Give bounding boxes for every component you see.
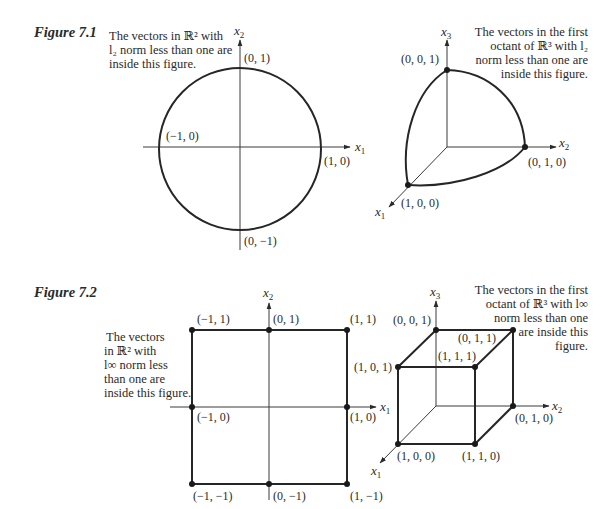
point-label-111: (1, 1, 1) <box>438 349 476 363</box>
point-bl <box>189 481 195 487</box>
figure-7-2-title: Figure 7.2 <box>33 284 97 300</box>
caption: The vectors in ℝ² with l∞ norm less than… <box>104 330 191 400</box>
point-label-ml: (−1, 0) <box>197 410 230 424</box>
point-label-110: (1, 1, 0) <box>462 449 500 463</box>
point-label-010: (0, 1, 0) <box>515 411 553 425</box>
point-010 <box>522 144 528 150</box>
caption-line: The vectors in the first <box>475 283 589 297</box>
caption: The vectors in the first octant of ℝ³ wi… <box>475 25 589 81</box>
point-101 <box>395 364 401 370</box>
figure-7-1-title: Figure 7.1 <box>33 24 97 40</box>
point-label-tc: (0, 1) <box>273 312 299 326</box>
x1-axis-label: x1 <box>370 463 381 480</box>
point-001 <box>433 327 439 333</box>
point-tl <box>189 327 195 333</box>
caption-line: inside this figure. <box>501 67 588 81</box>
point-bc <box>266 481 272 487</box>
point-100 <box>395 441 401 447</box>
caption-line: The vectors in ℝ² with <box>109 29 224 43</box>
x1-axis-label: x1 <box>374 204 385 221</box>
figure-7-1-l2-circle-panel: The vectors in ℝ² with l₂ norm less than… <box>109 23 365 250</box>
point-tr <box>344 327 350 333</box>
point-111 <box>472 364 478 370</box>
caption-line: figure. <box>555 339 588 353</box>
caption-line: norm less than one are <box>476 53 589 67</box>
caption-line: than one are <box>104 372 166 386</box>
point-ml <box>189 404 195 410</box>
caption-line: are inside this <box>519 325 589 339</box>
point-label-001: (0, 0, 1) <box>393 313 431 327</box>
caption-line: inside this figure. <box>104 386 191 400</box>
x2-axis-label: x2 <box>558 135 569 152</box>
point-label-bl: (−1, −1) <box>193 489 233 503</box>
caption-line: The vectors in the first <box>475 25 589 39</box>
point-label-right: (1, 0) <box>324 154 350 168</box>
point-label-100: (1, 0, 0) <box>397 449 435 463</box>
point-label-001: (0, 0, 1) <box>401 52 439 66</box>
caption-line: l∞ norm less <box>104 358 168 372</box>
figure-7-2-linf-cube-panel: The vectors in the first octant of ℝ³ wi… <box>354 283 589 480</box>
point-label-100: (1, 0, 0) <box>401 196 439 210</box>
point-label-bc: (0, −1) <box>273 489 306 503</box>
x1-axis-label: x1 <box>379 399 390 416</box>
point-011 <box>510 327 516 333</box>
figure-7-2: Figure 7.2 The vectors in ℝ² with l∞ nor… <box>33 283 589 503</box>
point-100 <box>405 182 411 188</box>
point-label-bottom: (0, −1) <box>244 234 277 248</box>
figure-7-1-l2-octant-panel: The vectors in the first octant of ℝ³ wi… <box>374 24 589 221</box>
arc-x3-x2 <box>447 70 525 147</box>
cube-edge <box>475 406 513 444</box>
point-110 <box>472 441 478 447</box>
point-label-101: (1, 0, 1) <box>354 360 392 374</box>
caption-line: inside this figure. <box>109 57 196 71</box>
point-001 <box>444 67 450 73</box>
arc-x2-x1 <box>408 147 525 185</box>
caption-line: in ℝ² with <box>104 344 157 358</box>
caption-line: octant of ℝ³ with l₂ <box>490 39 588 53</box>
x3-axis-label: x3 <box>440 24 452 41</box>
point-label-mr: (1, 0) <box>350 410 376 424</box>
point-label-tl: (−1, 1) <box>197 312 230 326</box>
figure-7-1: Figure 7.1 The vectors in ℝ² with l₂ nor… <box>33 23 589 250</box>
x1-axis-label: x1 <box>354 139 365 156</box>
figures-canvas: Figure 7.1 The vectors in ℝ² with l₂ nor… <box>0 0 616 509</box>
point-label-011: (0, 1, 1) <box>458 331 496 345</box>
figure-7-2-linf-square-panel: The vectors in ℝ² with l∞ norm less than… <box>104 285 390 503</box>
point-label-top: (0, 1) <box>244 51 270 65</box>
caption-line: norm less than one <box>494 311 589 325</box>
point-label-tr: (1, 1) <box>350 312 376 326</box>
point-010 <box>510 403 516 409</box>
caption: The vectors in ℝ² with l₂ norm less than… <box>109 29 233 71</box>
point-label-010: (0, 1, 0) <box>528 155 566 169</box>
caption-line: octant of ℝ³ with l∞ <box>486 297 588 311</box>
x2-axis-label: x2 <box>233 23 244 40</box>
point-br <box>344 481 350 487</box>
x3-axis-label: x3 <box>429 284 441 301</box>
x2-axis-label: x2 <box>262 285 273 302</box>
point-label-br: (1, −1) <box>350 489 383 503</box>
caption-line: The vectors <box>106 330 165 344</box>
caption-line: l₂ norm less than one are <box>109 43 233 57</box>
point-tc <box>266 327 272 333</box>
point-label-left: (−1, 0) <box>166 129 199 143</box>
